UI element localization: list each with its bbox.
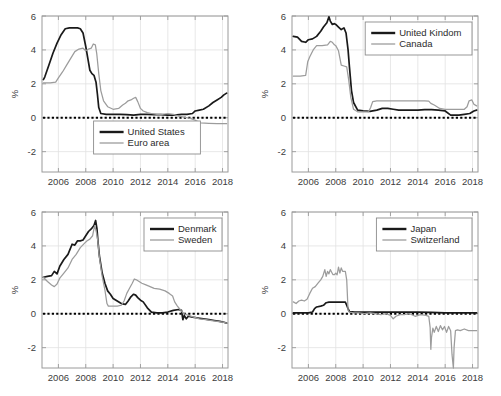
y-tick-label: -2 bbox=[28, 342, 36, 353]
y-tick-label: 4 bbox=[281, 240, 286, 251]
x-tick-label: 2008 bbox=[75, 176, 96, 187]
y-tick-label: 0 bbox=[281, 112, 286, 123]
x-tick-label: 2010 bbox=[353, 176, 374, 187]
x-tick-label: 2018 bbox=[212, 176, 233, 187]
panel-denmark-sweden: 2006200820102012201420162018-20246%Denma… bbox=[0, 196, 251, 396]
y-tick-label: -2 bbox=[278, 146, 286, 157]
legend-label-united-kindom: United Kindom bbox=[399, 27, 461, 38]
y-tick-label: 4 bbox=[281, 44, 286, 55]
figure-four-panel-policy-rates: 2006200820102012201420162018-20246%Unite… bbox=[0, 0, 501, 396]
series-line-switzerland bbox=[293, 267, 476, 368]
x-tick-label: 2018 bbox=[462, 176, 483, 187]
x-tick-label: 2012 bbox=[380, 176, 401, 187]
x-tick-label: 2008 bbox=[75, 372, 96, 383]
legend: JapanSwitzerland bbox=[376, 218, 472, 251]
x-tick-label: 2012 bbox=[130, 176, 151, 187]
series-line-united-states bbox=[43, 28, 226, 115]
legend-label-japan: Japan bbox=[410, 223, 436, 234]
legend-label-sweden: Sweden bbox=[178, 234, 212, 245]
y-axis-label: % bbox=[9, 89, 20, 98]
y-axis-label: % bbox=[9, 285, 20, 294]
legend-label-denmark: Denmark bbox=[178, 223, 217, 234]
x-tick-label: 2016 bbox=[185, 176, 206, 187]
x-tick-label: 2008 bbox=[325, 176, 346, 187]
legend-label-united-states: United States bbox=[128, 126, 185, 137]
x-tick-label: 2006 bbox=[298, 372, 319, 383]
y-tick-label: -2 bbox=[28, 146, 36, 157]
legend-label-euro-area: Euro area bbox=[128, 137, 170, 148]
x-tick-label: 2010 bbox=[353, 372, 374, 383]
x-tick-label: 2018 bbox=[212, 372, 233, 383]
y-tick-label: 6 bbox=[31, 207, 36, 218]
y-tick-label: 4 bbox=[31, 44, 36, 55]
x-tick-label: 2006 bbox=[48, 176, 69, 187]
y-tick-label: 6 bbox=[31, 11, 36, 22]
y-tick-label: -2 bbox=[278, 342, 286, 353]
x-tick-label: 2018 bbox=[462, 372, 483, 383]
x-tick-label: 2006 bbox=[48, 372, 69, 383]
x-tick-label: 2012 bbox=[130, 372, 151, 383]
x-tick-label: 2006 bbox=[298, 176, 319, 187]
y-tick-label: 6 bbox=[281, 11, 286, 22]
legend: United StatesEuro area bbox=[94, 121, 201, 154]
legend: United KindomCanada bbox=[365, 22, 472, 55]
x-tick-label: 2010 bbox=[103, 176, 124, 187]
y-tick-label: 2 bbox=[31, 274, 36, 285]
x-tick-label: 2016 bbox=[185, 372, 206, 383]
panel-japan-switzerland: 2006200820102012201420162018-20246%Japan… bbox=[250, 196, 501, 396]
x-tick-label: 2012 bbox=[380, 372, 401, 383]
panel-uk-canada: 2006200820102012201420162018-20246%Unite… bbox=[250, 0, 501, 200]
y-tick-label: 2 bbox=[281, 78, 286, 89]
y-tick-label: 0 bbox=[31, 308, 36, 319]
legend: DenmarkSweden bbox=[144, 218, 222, 251]
y-tick-label: 0 bbox=[31, 112, 36, 123]
x-tick-label: 2014 bbox=[157, 372, 178, 383]
legend-label-canada: Canada bbox=[399, 38, 433, 49]
x-tick-label: 2014 bbox=[157, 176, 178, 187]
x-tick-label: 2010 bbox=[103, 372, 124, 383]
panel-us-euro: 2006200820102012201420162018-20246%Unite… bbox=[0, 0, 251, 200]
y-tick-label: 2 bbox=[31, 78, 36, 89]
y-tick-label: 6 bbox=[281, 207, 286, 218]
y-tick-label: 0 bbox=[281, 308, 286, 319]
y-tick-label: 4 bbox=[31, 240, 36, 251]
x-tick-label: 2016 bbox=[435, 372, 456, 383]
x-tick-label: 2014 bbox=[407, 176, 428, 187]
y-tick-label: 2 bbox=[281, 274, 286, 285]
x-tick-label: 2016 bbox=[435, 176, 456, 187]
x-tick-label: 2014 bbox=[407, 372, 428, 383]
y-axis-label: % bbox=[259, 285, 270, 294]
legend-label-switzerland: Switzerland bbox=[410, 234, 459, 245]
x-tick-label: 2008 bbox=[325, 372, 346, 383]
series-line-japan bbox=[293, 302, 476, 313]
y-axis-label: % bbox=[259, 89, 270, 98]
